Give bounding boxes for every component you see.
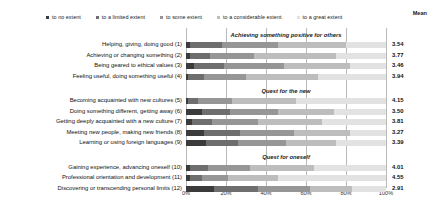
bar-row [186,109,386,115]
legend-label-no-extent: to no extent [52,14,81,20]
mean-value: 4.01 [392,164,422,171]
bar-segment [336,140,386,146]
legend-label-some-extent: to some extent [166,14,202,20]
bar-segment [258,119,322,125]
bar-segment [192,119,212,125]
bar-row [186,119,386,125]
stacked-bar-chart: to no extent to a limited extent to some… [0,0,435,218]
bar-row [186,74,386,80]
bar-segment [202,109,230,115]
group-title-band: Achieving something positive for others [186,29,386,40]
mean-value: 3.54 [392,41,422,48]
bar-segment [228,175,278,181]
bar-segment [186,186,214,192]
bar-segment [188,98,198,104]
bar-segment [250,165,314,171]
bar-segment [294,130,350,136]
bar-segment [240,130,294,136]
legend-label-limited-extent: to a limited extent [102,14,145,20]
mean-value: 4.55 [392,174,422,181]
category-label: Professional orientation and development… [0,174,182,181]
legend-swatch-considerable-extent [217,16,220,19]
category-label: Meeting new people, making new friends (… [0,129,182,136]
bar-segment [214,186,258,192]
bar-segment [336,53,386,59]
plot-area: Achieving something positive for othersQ… [186,28,386,188]
bar-row [186,63,386,69]
category-label: Helping, giving, doing good (1) [0,41,182,48]
bar-segment [190,42,222,48]
bar-segment [238,140,286,146]
bar-segment [208,165,250,171]
bar-segment [350,63,386,69]
bar-segment [232,98,296,104]
legend-item-considerable-extent: to a considerable extent [217,14,281,20]
bar-row [186,53,386,59]
legend-swatch-some-extent [160,16,163,19]
bar-segment [310,186,352,192]
category-label: Learning or using foreign languages (9) [0,139,182,146]
category-label: Feeling useful, doing something useful (… [0,73,182,80]
bar-segment [204,130,240,136]
bar-segment [286,140,336,146]
bar-segment [190,165,208,171]
bar-segment [258,186,310,192]
mean-value: 3.46 [392,62,422,69]
bar-segment [186,130,204,136]
chart-legend: to no extent to a limited extent to some… [0,10,435,24]
bar-segment [186,109,202,115]
bar-segment [190,175,202,181]
legend-label-considerable-extent: to a considerable extent [223,14,281,20]
bar-segment [278,109,334,115]
category-axis-labels: Helping, giving, doing good (1)Achieving… [0,28,182,188]
mean-value: 3.81 [392,118,422,125]
bar-segment [278,42,346,48]
bar-segment [246,74,318,80]
bar-segment [322,119,386,125]
legend-item-great-extent: to a great extent [297,14,343,20]
bar-segment [198,98,232,104]
bar-segment [224,63,284,69]
bar-segment [202,175,228,181]
bar-segment [254,53,336,59]
bar-segment [212,119,258,125]
bar-row [186,98,386,104]
bar-segment [296,98,386,104]
bar-segment [278,175,386,181]
bar-segment [284,63,350,69]
legend-item-no-extent: to no extent [46,14,81,20]
bar-row [186,175,386,181]
category-label: Doing something different, getting away … [0,108,182,115]
x-axis-tick-labels: 0%20%40%60%80%100% [186,190,386,202]
bar-segment [206,140,238,146]
group-title-band: Quest for the new [186,85,386,96]
legend-swatch-great-extent [297,16,300,19]
mean-value: 2.91 [392,185,422,192]
bar-row [186,140,386,146]
bar-segment [210,53,254,59]
mean-column-header: Mean [413,10,427,16]
mean-value: 3.94 [392,73,422,80]
mean-value-column: 3.543.773.463.944.153.503.813.273.394.01… [392,28,435,188]
category-label: Being geared to ethical values (3) [0,62,182,69]
bar-segment [190,53,210,59]
category-label: Getting deeply acquainted with a new cul… [0,118,182,125]
bar-segment [314,165,386,171]
bar-segment [350,130,386,136]
gridline-100 [386,28,387,188]
bar-row [186,165,386,171]
bar-segment [222,42,278,48]
bar-segment [230,109,278,115]
bar-segment [352,186,386,192]
bar-segment [318,74,386,80]
bar-row [186,130,386,136]
bar-segment [204,74,246,80]
bar-segment [194,63,224,69]
bar-segment [188,74,204,80]
bar-segment [186,140,206,146]
bar-segment [346,42,386,48]
category-label: Gaining experience, advancing oneself (1… [0,164,182,171]
legend-swatch-limited-extent [96,16,99,19]
legend-item-some-extent: to some extent [160,14,202,20]
bar-row [186,186,386,192]
